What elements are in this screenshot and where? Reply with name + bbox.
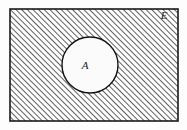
venn-diagram-figure: A E (0, 0, 187, 130)
diagram-canvas: A E (0, 0, 187, 130)
set-a-circle (62, 37, 118, 93)
universal-set-label: E (160, 9, 168, 21)
set-a-label: A (81, 59, 89, 71)
